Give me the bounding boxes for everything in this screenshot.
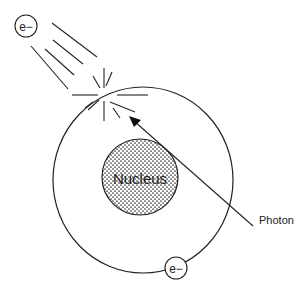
ejected-electron-label: e− (19, 20, 33, 34)
orbital-electron-label: e− (169, 262, 183, 276)
collision-burst-icon (72, 68, 148, 121)
electron-trail-lines (31, 23, 97, 89)
diagram-canvas: Nucleus e− (0, 0, 305, 287)
ejected-electron: e− (15, 15, 37, 37)
photon-label: Photon (259, 214, 294, 226)
nucleus-label: Nucleus (113, 170, 167, 187)
atom-diagram: Nucleus e− (0, 0, 305, 287)
orbital-electron: e− (165, 257, 187, 279)
